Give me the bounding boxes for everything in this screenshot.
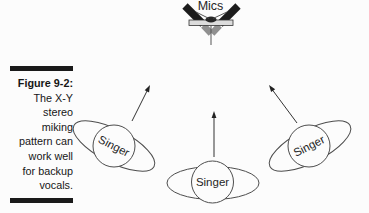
xy-mic-pair-icon: Mics <box>185 0 238 45</box>
left-mic-capsule <box>204 26 212 34</box>
arrow-left-head-icon <box>145 85 150 92</box>
xy-miking-diagram: Mics Singer Singer Singer <box>0 0 369 213</box>
singer-right: Singer <box>262 111 357 181</box>
mics-label: Mics <box>198 0 224 13</box>
singer-center: Singer <box>167 161 259 203</box>
arrow-right-shaft <box>273 90 298 123</box>
arrow-right <box>269 85 297 123</box>
arrow-center <box>212 111 217 157</box>
arrow-left <box>132 85 150 121</box>
arrow-right-head-icon <box>269 85 275 92</box>
arrow-left-shaft <box>132 91 147 121</box>
right-mic-capsule <box>212 26 220 34</box>
singer-left: Singer <box>66 111 161 181</box>
singer-label: Singer <box>196 176 229 188</box>
figure-panel: Figure 9-2: The X-Y stereo miking patter… <box>0 0 369 213</box>
arrow-center-head-icon <box>212 111 217 118</box>
